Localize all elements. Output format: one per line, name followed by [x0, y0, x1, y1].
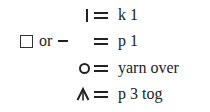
equals-sign — [93, 55, 109, 81]
knit-symbol — [76, 2, 88, 28]
square-icon — [20, 35, 33, 48]
legend-row-knit: k 1 — [0, 2, 210, 28]
equals-sign — [93, 81, 109, 107]
legend-row-yarn-over: yarn over — [0, 55, 210, 81]
equals-sign — [93, 28, 109, 54]
equals-sign — [93, 2, 109, 28]
legend-meaning: p 1 — [118, 28, 138, 54]
vertical-bar-icon — [86, 9, 88, 22]
yarn-over-symbol — [72, 55, 90, 81]
circle-icon — [79, 63, 90, 74]
legend-meaning: yarn over — [118, 55, 179, 81]
p3tog-symbol — [72, 81, 90, 107]
legend-meaning: p 3 tog — [118, 81, 162, 107]
legend-meaning: k 1 — [118, 2, 138, 28]
legend-row-purl: or p 1 — [0, 28, 210, 54]
or-label: or — [39, 32, 52, 50]
caret-with-stem-icon — [76, 87, 90, 101]
legend-row-p3tog: p 3 tog — [0, 81, 210, 107]
purl-symbols: or — [20, 28, 90, 54]
dash-icon — [58, 40, 68, 42]
